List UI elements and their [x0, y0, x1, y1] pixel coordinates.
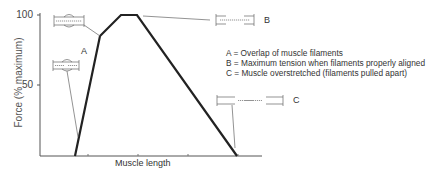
y-axis-label: Force (% maximum) [13, 48, 24, 128]
marker-c: C [293, 95, 300, 105]
legend-item-a: A = Overlap of muscle filaments [226, 48, 425, 58]
sarcomere-diagram-a-upper [54, 15, 84, 28]
sarcomere-diagram-a-lower [53, 60, 79, 72]
sarcomere-diagram-c [217, 95, 283, 106]
force-curve [75, 15, 237, 156]
legend-item-b: B = Maximum tension when filaments prope… [226, 58, 425, 68]
marker-a: A [81, 46, 87, 56]
sarcomere-diagram-b [216, 14, 254, 26]
y-tick-label-100: 100 [3, 9, 33, 20]
x-axis-label: Muscle length [115, 158, 171, 168]
chart-plot [0, 0, 443, 175]
legend-item-c: C = Muscle overstretched (filaments pull… [226, 68, 425, 78]
marker-b: B [264, 15, 270, 25]
legend: A = Overlap of muscle filaments B = Maxi… [226, 48, 425, 78]
force-length-chart: 100 50 Force (% maximum) Muscle length A… [0, 0, 443, 175]
